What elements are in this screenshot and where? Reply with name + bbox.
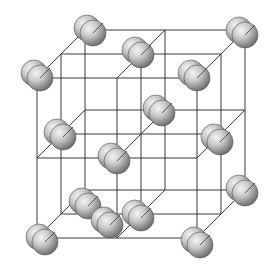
crystal-lattice-diagram	[0, 0, 275, 275]
atom-pair-front-top-left	[21, 60, 53, 91]
atom-pair-front-top-right	[178, 60, 210, 91]
atom-pair-right-face-center	[201, 124, 233, 155]
atom-pair-top-face-center	[122, 37, 154, 68]
atom-pair-back-right-mid	[143, 95, 175, 126]
atom-pair-back-top-right	[226, 17, 258, 48]
atom-pair-back-top-left	[74, 15, 106, 46]
lattice-canvas	[0, 0, 275, 275]
atom-pair-bottom-face-center	[122, 200, 154, 231]
atom-pair-front-bottom-right	[181, 227, 213, 258]
atom-pair-front-face-center	[91, 207, 123, 238]
atom-pair-body-center	[98, 143, 130, 174]
atom-pair-front-bottom-left	[26, 224, 58, 255]
lattice-atoms	[21, 15, 258, 258]
atom-pair-back-bottom-right	[226, 175, 258, 206]
